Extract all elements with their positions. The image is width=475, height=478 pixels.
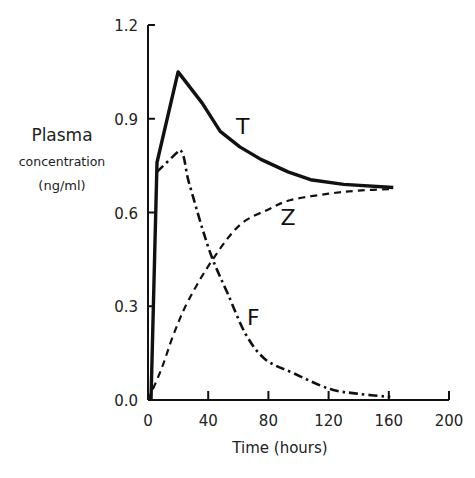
y-tick-label: 0.3 (114, 298, 138, 316)
x-tick-label: 80 (259, 412, 278, 430)
y-tick-label: 1.2 (114, 17, 138, 35)
pk-line-chart: 0.00.30.60.91.204080120160200 TZF Plasma… (0, 0, 475, 478)
y-axis-title-line-2: concentration (19, 154, 106, 169)
y-tick-label: 0.9 (114, 111, 138, 129)
series-z-line (148, 189, 393, 400)
x-tick-label: 40 (199, 412, 218, 430)
x-tick-label: 160 (374, 412, 403, 430)
x-tick-label: 200 (435, 412, 464, 430)
curve-label-z: Z (280, 205, 295, 230)
curve-label-t: T (235, 114, 250, 139)
curve-label-f: F (247, 305, 260, 330)
x-axis-title: Time (hours) (231, 439, 327, 457)
axis-titles: Plasma concentration (ng/ml) Time (hours… (19, 125, 328, 457)
series-f-line (157, 150, 390, 397)
y-tick-label: 0.6 (114, 205, 138, 223)
y-tick-label: 0.0 (114, 392, 138, 410)
x-tick-label: 120 (314, 412, 343, 430)
series-t-line (151, 72, 393, 400)
y-axis-title-line-1: Plasma (31, 125, 92, 145)
y-axis-title-line-3: (ng/ml) (38, 178, 85, 193)
x-tick-label: 0 (143, 412, 153, 430)
series-layer (148, 72, 393, 400)
